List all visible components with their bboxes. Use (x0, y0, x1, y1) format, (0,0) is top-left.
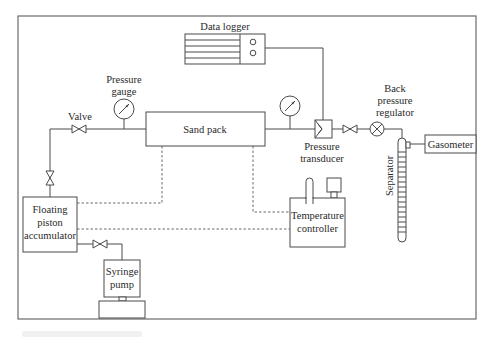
valve-icon (343, 125, 357, 133)
dashed-control-line (77, 146, 162, 203)
pressure-gauge-label-line2: gauge (111, 86, 136, 97)
gasometer-label: Gasometer (428, 139, 474, 150)
temperature-controller-label-line2: controller (297, 223, 338, 234)
injection-line (50, 129, 146, 197)
fpa-label-line3: accumulator (24, 230, 76, 241)
heater-icon (327, 178, 341, 192)
temperature-controller-label-line1: Temperature (291, 210, 344, 221)
back-pressure-regulator-icon (370, 122, 384, 136)
syringe-pump-base (99, 301, 145, 318)
bpr-label-line2: pressure (378, 95, 413, 106)
valve-label: Valve (68, 111, 92, 122)
apparatus-diagram: Data logger Valve Pressure gauge Sand pa… (0, 0, 492, 343)
fpa-label-line1: Floating (32, 204, 68, 215)
pressure-gauge-icon (114, 99, 134, 129)
valve-icon (72, 125, 86, 133)
transducer-label-line2: transducer (300, 153, 344, 164)
syringe-pump-label-line2: pump (110, 279, 134, 290)
syringe-pump-label-line1: Syringe (106, 266, 139, 277)
bpr-label-line1: Back (384, 83, 406, 94)
valve-icon (46, 171, 54, 185)
bpr-label-line3: regulator (376, 107, 414, 118)
pump-line (77, 244, 122, 260)
data-logger-body (185, 34, 265, 64)
separator (398, 138, 410, 242)
pressure-transducer (315, 120, 332, 138)
separator-label: Separator (384, 155, 395, 196)
fpa-label-line2: piston (37, 217, 63, 228)
data-logger: Data logger (185, 21, 265, 64)
data-logger-label: Data logger (200, 21, 250, 32)
pressure-gauge-icon (280, 96, 300, 129)
syringe-pump-stem (119, 297, 126, 301)
valve-icon (93, 240, 107, 248)
transducer-label-line1: Pressure (304, 141, 340, 152)
sand-pack-label: Sand pack (183, 124, 227, 135)
dashed-control-line (253, 146, 290, 212)
pressure-gauge-label-line1: Pressure (106, 74, 142, 85)
figure-caption-placeholder (22, 331, 142, 337)
